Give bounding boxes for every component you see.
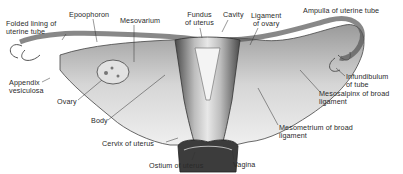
label-cervix: Cervix of uterus — [102, 140, 154, 148]
label-infundibulum: Infundibulum of tube — [346, 73, 388, 88]
label-appendix: Appendix vesiculosa — [9, 79, 44, 94]
label-epoophoron: Epoophoron — [69, 11, 109, 19]
label-mesometrium: Mesometrium of broad ligament — [279, 124, 353, 139]
anatomy-figure: Folded lining of uterine tube Epoophoron… — [0, 0, 403, 174]
left-fimbriae — [10, 45, 40, 61]
label-ostium: Ostium of uterus — [149, 162, 203, 170]
label-ligament-ovary: Ligament of ovary — [251, 12, 281, 27]
label-mesosalpinx: Mesosalpinx of broad ligament — [319, 90, 389, 105]
label-mesovarium: Mesovarium — [120, 17, 160, 25]
label-body: Body — [91, 117, 108, 125]
label-ampulla: Ampulla of uterine tube — [303, 7, 379, 15]
label-folded-lining: Folded lining of uterine tube — [6, 20, 56, 35]
label-fundus: Fundus of uterus — [185, 11, 214, 26]
label-ovary: Ovary — [57, 98, 77, 106]
label-cavity: Cavity — [223, 11, 244, 19]
label-vagina: Vagina — [233, 161, 255, 169]
